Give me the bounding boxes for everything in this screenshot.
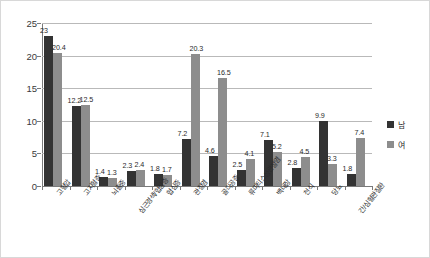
bar-value-label: 7.2 bbox=[178, 129, 188, 138]
bar-남 bbox=[209, 156, 218, 186]
legend-label: 여 bbox=[398, 139, 405, 150]
bar-남 bbox=[292, 168, 301, 186]
bar-group: 1.41.3 bbox=[97, 23, 125, 186]
bar-value-label: 23 bbox=[40, 26, 48, 35]
bar-value-label: 1.3 bbox=[107, 168, 117, 177]
y-tick-label: 15 bbox=[26, 83, 37, 94]
legend-swatch-icon bbox=[387, 121, 394, 128]
y-tick-mark bbox=[37, 186, 41, 187]
bar-group: 2.54.1 bbox=[235, 23, 263, 186]
y-axis-labels: 0510152025 bbox=[13, 23, 37, 187]
y-tick-mark bbox=[37, 121, 41, 122]
bar-value-label: 20.4 bbox=[52, 43, 66, 52]
plot-area: 2320.412.212.51.41.32.32.41.81.77.220.34… bbox=[42, 23, 372, 187]
bar-value-label: 12.5 bbox=[80, 95, 94, 104]
bar-value-label: 2.8 bbox=[288, 158, 298, 167]
bar-group: 4.616.5 bbox=[207, 23, 235, 186]
bar-value-label: 5.2 bbox=[272, 142, 282, 151]
bar-value-label: 9.9 bbox=[315, 111, 325, 120]
bar-group: 9.93.3 bbox=[317, 23, 345, 186]
y-tick-mark bbox=[37, 153, 41, 154]
bar-group: 7.220.3 bbox=[180, 23, 208, 186]
bar-group: 1.87.4 bbox=[345, 23, 373, 186]
bar-value-label: 4.1 bbox=[245, 149, 255, 158]
bar-여 bbox=[191, 54, 200, 186]
bar-value-label: 1.8 bbox=[343, 164, 353, 173]
bar-value-label: 1.8 bbox=[150, 164, 160, 173]
bar-value-label: 1.7 bbox=[162, 165, 172, 174]
bar-chart-figure: 0510152025 2320.412.212.51.41.32.32.41.8… bbox=[0, 0, 430, 258]
bar-여 bbox=[53, 53, 62, 186]
y-tick-label: 10 bbox=[26, 115, 37, 126]
bar-남 bbox=[72, 106, 81, 186]
legend-swatch-icon bbox=[387, 141, 394, 148]
bar-value-label: 7.1 bbox=[260, 130, 270, 139]
bar-value-label: 2.3 bbox=[123, 161, 133, 170]
bar-남 bbox=[347, 174, 356, 186]
legend-label: 남 bbox=[398, 119, 405, 130]
y-tick-mark bbox=[37, 23, 41, 24]
bar-남 bbox=[182, 139, 191, 186]
y-tick-label: 25 bbox=[26, 18, 37, 29]
bar-group: 1.81.7 bbox=[152, 23, 180, 186]
bar-value-label: 4.6 bbox=[205, 146, 215, 155]
bar-group: 2.84.5 bbox=[290, 23, 318, 186]
chart-legend: 남여 bbox=[387, 119, 405, 159]
bar-여 bbox=[81, 105, 90, 187]
bars-layer: 2320.412.212.51.41.32.32.41.81.77.220.34… bbox=[42, 23, 372, 187]
bar-group: 12.212.5 bbox=[70, 23, 98, 186]
bar-value-label: 2.4 bbox=[135, 160, 145, 169]
bar-남 bbox=[44, 36, 53, 186]
legend-item[interactable]: 남 bbox=[387, 119, 405, 130]
bar-남 bbox=[127, 171, 136, 186]
bar-group: 2320.4 bbox=[42, 23, 70, 186]
legend-item[interactable]: 여 bbox=[387, 139, 405, 150]
bar-여 bbox=[136, 170, 145, 186]
y-tick-label: 20 bbox=[26, 50, 37, 61]
bar-value-label: 4.5 bbox=[300, 147, 310, 156]
bar-여 bbox=[356, 138, 365, 186]
bar-group-end bbox=[372, 23, 373, 186]
y-tick-mark bbox=[37, 88, 41, 89]
bar-value-label: 7.4 bbox=[355, 128, 365, 137]
y-tick-mark bbox=[37, 56, 41, 57]
bar-여 bbox=[218, 78, 227, 186]
bar-value-label: 2.5 bbox=[233, 160, 243, 169]
bar-value-label: 3.3 bbox=[327, 154, 337, 163]
bar-group: 2.32.4 bbox=[125, 23, 153, 186]
bar-value-label: 16.5 bbox=[217, 68, 231, 77]
bar-value-label: 20.3 bbox=[190, 44, 204, 53]
x-axis-category-labels: 고혈압고지혈증뇌졸중심근경색/협심증협심증관절염골다공증류마티스성관절염백내장천… bbox=[42, 187, 372, 257]
